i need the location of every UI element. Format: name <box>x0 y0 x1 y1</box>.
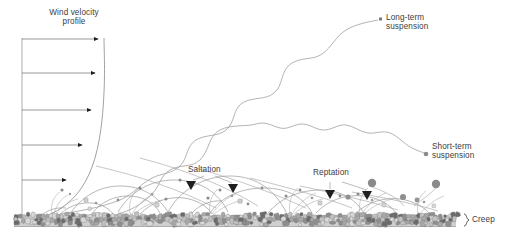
bed-grain <box>225 223 229 226</box>
bed-grain <box>427 217 430 222</box>
transport-diagram-svg <box>0 0 512 239</box>
bed-grain <box>250 221 253 224</box>
bed-grain <box>58 222 62 227</box>
bed-grain <box>282 220 289 226</box>
bed-grain <box>22 219 26 224</box>
bed-grain <box>455 212 460 217</box>
long-term-suspension-label: Long-termsuspension <box>386 13 428 32</box>
bed-grain <box>267 221 272 224</box>
bed-grain <box>452 216 456 222</box>
bed-grain <box>14 220 20 225</box>
bed-grain <box>300 212 303 215</box>
bed-grain <box>272 218 276 222</box>
bed-grain <box>371 218 375 222</box>
bed-grain <box>245 220 249 225</box>
bed-grain <box>221 212 225 217</box>
bed-grain <box>321 220 325 225</box>
bed-grain <box>405 220 410 224</box>
creep-brace-group <box>464 214 469 226</box>
incident-grain-paths <box>96 158 438 211</box>
saltation-arc-6 <box>268 190 364 213</box>
bed-grain <box>200 221 205 225</box>
long-term-label-line1: Long-term <box>386 13 424 22</box>
sediment-bed <box>14 211 461 227</box>
saltation-arc-5 <box>210 188 312 213</box>
wind-profile-curve <box>22 38 105 222</box>
short-term-particle-marker <box>424 152 429 157</box>
reptation-label: Reptation <box>313 168 349 177</box>
bed-grain <box>22 215 26 218</box>
saltation-leader-2 <box>215 176 232 183</box>
bed-grain <box>437 222 443 227</box>
bed-grain <box>136 216 142 219</box>
bed-grain <box>32 221 37 224</box>
creep-brace-icon <box>464 214 469 226</box>
wind-velocity-profile <box>22 38 105 222</box>
reptation-leader-2 <box>342 182 366 190</box>
bed-grain <box>106 213 110 218</box>
long-term-particle-marker <box>379 18 382 21</box>
creep-label: Creep <box>472 215 495 224</box>
bed-grain <box>60 214 64 219</box>
short-term-label-line1: Short-term <box>432 142 472 151</box>
wind-velocity-profile-label: Wind velocityprofile <box>28 8 120 27</box>
incident-4 <box>250 178 352 208</box>
bed-grain <box>146 221 153 226</box>
bed-grain <box>248 216 251 219</box>
bed-grain <box>68 221 72 226</box>
bed-grain <box>105 222 109 226</box>
bed-grain <box>190 219 193 222</box>
bed-grain <box>130 214 134 217</box>
airborne-fine-grains <box>60 179 435 211</box>
wind-profile-label-line1: Wind velocity <box>49 8 99 17</box>
short-term-label-line2: suspension <box>432 151 474 160</box>
long-term-label-line2: suspension <box>386 22 428 31</box>
bed-grain <box>64 212 69 216</box>
saltation-triangle-2 <box>228 184 238 193</box>
bed-grain <box>125 217 129 221</box>
bed-grain <box>50 218 55 223</box>
bed-grain <box>26 212 29 216</box>
wind-profile-label-line2: profile <box>63 17 86 26</box>
short-term-suspension-label: Short-termsuspension <box>432 142 474 161</box>
bed-grain <box>365 222 370 225</box>
saltation-label: Saltation <box>188 165 221 174</box>
splash-ejecta <box>51 188 444 214</box>
bed-grain <box>445 221 451 227</box>
reptation-triangle-1 <box>325 190 335 199</box>
diagram-canvas: Wind velocityprofile Long-termsuspension… <box>0 0 512 239</box>
bed-grain <box>206 212 210 216</box>
long-term-suspension-trajectory <box>60 18 382 215</box>
bed-grain <box>329 221 335 224</box>
bed-grain <box>41 222 46 226</box>
bed-grain <box>386 221 392 225</box>
bed-grain <box>128 220 134 226</box>
bed-grain <box>176 222 181 226</box>
